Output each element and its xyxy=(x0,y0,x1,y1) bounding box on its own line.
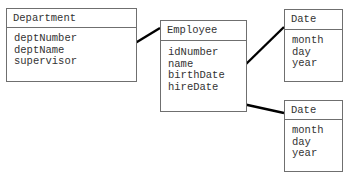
class-date-birth: Date month day year xyxy=(284,9,343,82)
class-name: Date xyxy=(285,10,342,30)
attribute: month xyxy=(292,35,342,47)
attribute: idNumber xyxy=(168,47,246,59)
class-name: Employee xyxy=(161,21,246,41)
attribute: year xyxy=(292,148,342,160)
attribute-list: idNumber name birthDate hireDate xyxy=(161,41,246,93)
class-name: Department xyxy=(7,9,136,28)
attribute: supervisor xyxy=(14,56,136,68)
attribute: month xyxy=(292,125,342,137)
uml-diagram: Department deptNumber deptName superviso… xyxy=(0,0,348,178)
attribute: hireDate xyxy=(168,82,246,94)
attribute: deptNumber xyxy=(14,33,136,45)
attribute-list: month day year xyxy=(285,30,342,70)
class-department: Department deptNumber deptName superviso… xyxy=(6,8,137,82)
attribute: year xyxy=(292,58,342,70)
class-employee: Employee idNumber name birthDate hireDat… xyxy=(160,20,247,112)
attribute-list: month day year xyxy=(285,120,342,160)
class-date-hire: Date month day year xyxy=(284,100,343,172)
class-name: Date xyxy=(285,101,342,120)
attribute: birthDate xyxy=(168,70,246,82)
attribute-list: deptNumber deptName supervisor xyxy=(7,28,136,68)
